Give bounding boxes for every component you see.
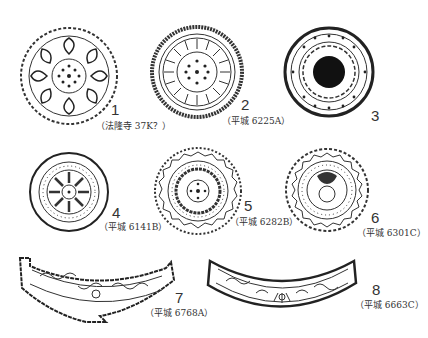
tile-figure-1 [18,24,120,128]
lotus-tile-drawing [18,24,120,128]
zigzag-flower-tile-drawing [284,146,370,234]
eave-tile-figure-8 [204,255,360,325]
figure-number: 2 [241,96,249,113]
tile-figure-3 [282,24,376,120]
figure-number: 3 [371,107,379,124]
figure-number: 8 [372,281,380,298]
tile-figure-6 [284,146,370,234]
eave-tile-drawing [204,255,360,325]
figure-caption: （法隆寺 37K？） [96,119,171,132]
figure-caption: （平城 6225A） [222,114,290,127]
figure-number: 6 [371,209,379,226]
figure-caption: （平城 6301C） [357,226,426,239]
dark-center-tile-drawing [282,24,376,120]
figure-number: 5 [244,197,252,214]
radial-petal-tile-drawing [28,150,110,234]
tile-figure-4 [28,150,110,234]
figure-caption: （平城 6663C） [355,298,424,311]
tile-figure-2 [149,24,245,120]
figure-number: 7 [175,289,183,306]
figure-number: 4 [112,204,120,221]
figure-number: 1 [111,101,119,118]
lotus-tile-drawing [149,24,245,120]
